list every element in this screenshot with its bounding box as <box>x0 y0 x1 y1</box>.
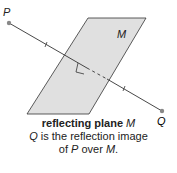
label-p: P <box>3 6 11 18</box>
caption-line1: Q is the reflection image <box>0 130 177 143</box>
point-p <box>7 21 11 25</box>
reflection-diagram: P M <box>0 0 177 120</box>
caption: reflecting plane M Q is the reflection i… <box>0 117 177 156</box>
point-q <box>160 109 164 113</box>
caption-title: reflecting plane M <box>0 117 177 130</box>
caption-line2: of P over M. <box>0 143 177 156</box>
plane-m <box>27 18 146 114</box>
label-m: M <box>117 28 127 40</box>
segment-plane-to-q <box>107 79 162 111</box>
